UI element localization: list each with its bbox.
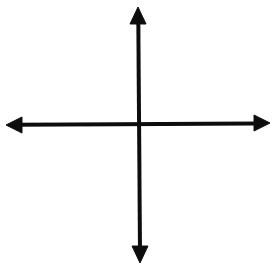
y-axis-up-arrow-icon bbox=[130, 7, 146, 24]
x-axis-left-arrow-icon bbox=[6, 117, 22, 133]
coordinate-axes-diagram bbox=[0, 0, 274, 265]
y-axis-down-arrow-icon bbox=[132, 246, 148, 263]
x-axis-right-arrow-icon bbox=[254, 115, 270, 131]
y-axis-line bbox=[138, 20, 140, 250]
